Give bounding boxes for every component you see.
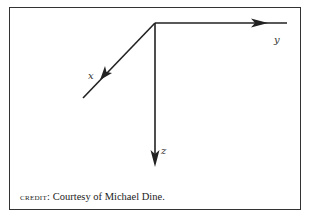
credit-prefix: credit: [20,191,50,202]
z-axis-label: z [161,145,166,156]
coordinate-axes-diagram [0,0,312,220]
credit-text: Courtesy of Michael Dine. [50,191,165,202]
y-axis-label: y [274,34,280,45]
x-arrowhead-icon [100,66,112,80]
credit-line: credit: Courtesy of Michael Dine. [20,191,165,202]
x-axis-line [83,23,155,98]
x-axis-label: x [88,70,94,81]
